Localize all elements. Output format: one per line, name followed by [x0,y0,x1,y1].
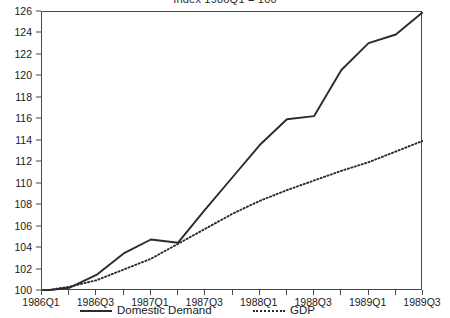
y-tick-label: 112 [15,156,32,167]
x-tick-mark [395,290,396,295]
x-tick-mark [95,290,96,295]
legend-label: GDP [290,305,315,317]
x-tick-mark [232,290,233,295]
y-tick-label: 108 [14,199,32,210]
y-tick-label: 126 [14,6,32,17]
chart-container: Index 1986Q1 = 100 126124122120118116114… [0,0,450,318]
y-tick-label: 116 [15,113,32,124]
y-tick-label: 106 [14,220,32,231]
plot-lines [42,12,423,291]
legend-label: Domestic Demand [117,305,212,317]
x-tick-mark [68,290,69,295]
legend-swatch-dotted-line-icon [253,307,285,315]
x-tick-mark [259,290,260,295]
x-tick-mark [41,290,42,295]
y-tick-label: 120 [14,70,32,81]
x-tick-mark [204,290,205,295]
chart-legend: Domestic Demand GDP [0,305,450,318]
plot-area [41,11,422,290]
x-tick-mark [368,290,369,295]
chart-title: Index 1986Q1 = 100 [0,0,450,5]
y-tick-label: 124 [14,27,32,38]
legend-item-gdp: GDP [253,305,315,317]
x-tick-mark [123,290,124,295]
y-tick-label: 104 [14,242,32,253]
y-tick-label: 114 [15,135,32,146]
x-tick-mark [340,290,341,295]
series-line-gdp [42,141,423,291]
y-tick-label: 122 [14,49,32,60]
x-tick-mark [177,290,178,295]
series-line-domestic-demand [42,12,423,291]
legend-item-domestic-demand: Domestic Demand [80,305,212,317]
legend-swatch-solid-line-icon [80,307,112,315]
x-tick-mark [150,290,151,295]
y-tick-label: 110 [15,177,32,188]
y-axis: 1261241221201181161141121101081061041021… [0,0,41,300]
x-tick-mark [422,290,423,295]
x-tick-mark [286,290,287,295]
y-tick-label: 118 [15,92,32,103]
y-tick-label: 102 [14,263,32,274]
x-tick-mark [313,290,314,295]
